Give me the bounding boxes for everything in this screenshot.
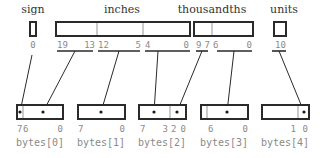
bit-label: 9 [196,40,201,50]
bit-label: 0 [30,40,35,50]
bit-label: 5 [136,40,141,50]
bit-label: 7 [17,124,22,134]
bit-label: 19 [57,40,68,50]
connector-thou-lo-to-byte3 [227,51,234,112]
connector-dot [99,110,102,113]
connector-inches-hi-to-byte0 [43,51,75,112]
connector-dot [225,110,228,113]
bit-packing-diagram: sign inches thousandths units 0 19 13 12… [0,0,326,158]
bit-label: 0 [181,124,186,134]
bit-label: 12 [98,40,109,50]
byte-box-1 [78,105,125,119]
connector-inches-lo-to-byte2 [154,51,158,112]
bit-label: 13 [84,40,95,50]
bit-label: 0 [281,40,286,50]
connector-dot [152,110,155,113]
field-label-units: units [270,3,298,16]
bit-label: 0 [184,40,189,50]
bit-label: 1 [291,124,296,134]
connector-inches-mid-to-byte1 [101,51,119,112]
field-box-inches [56,22,190,36]
bit-label: 0 [120,124,125,134]
byte-box-0 [17,105,63,119]
field-label-inches: inches [104,3,140,16]
field-label-sign: sign [21,3,44,16]
byte-label-2: bytes[2] [138,137,186,148]
field-label-thousandths: thousandths [178,3,247,16]
bit-label: 0 [247,40,252,50]
bit-label: 2 [171,124,176,134]
bit-label: 7 [78,124,83,134]
connector-dot [41,110,44,113]
byte-box-4 [262,105,309,119]
field-box-sign [30,22,36,36]
byte-box-2 [139,105,186,119]
byte-label-0: bytes[0] [16,137,64,148]
bit-label: 3 [163,124,168,134]
bit-label: 6 [213,40,218,50]
bit-label: 0 [303,124,308,134]
byte-label-4: bytes[4] [261,137,309,148]
byte-box-3 [201,105,248,119]
byte-label-1: bytes[1] [77,137,125,148]
field-box-thousandths [194,22,253,36]
field-box-units [274,22,286,36]
connector-sign-to-byte0 [20,55,32,112]
bit-label: 4 [145,40,150,50]
bit-label: 7 [140,124,145,134]
connector-thou-hi-to-byte2 [177,51,202,112]
connector-units-to-byte4 [279,51,304,112]
bit-label: 6 [208,124,213,134]
connector-dot [302,110,305,113]
connector-dot [175,110,178,113]
bit-label: 0 [243,124,248,134]
bit-label: 0 [58,124,63,134]
bit-label: 6 [23,124,28,134]
bit-label: 7 [205,40,210,50]
connector-dot [18,110,21,113]
byte-label-3: bytes[3] [200,137,248,148]
